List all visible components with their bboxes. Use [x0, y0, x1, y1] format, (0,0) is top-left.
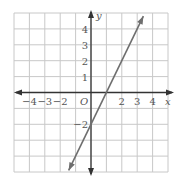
x-axis-label: x	[165, 96, 171, 107]
line-arrow-down-icon	[69, 162, 75, 171]
x-tick-label: −3	[37, 96, 52, 107]
y-tick-label: −2	[73, 119, 88, 130]
tick-labels: −4−3−22344321−2	[22, 24, 156, 130]
y-tick-label: 4	[82, 24, 88, 35]
x-axis-arrow-left-icon	[14, 90, 22, 96]
y-tick-label: 1	[82, 72, 88, 83]
axes	[14, 10, 174, 176]
y-axis-label: y	[95, 10, 102, 21]
y-axis-arrow-up-icon	[88, 10, 94, 18]
x-tick-label: −2	[53, 96, 68, 107]
line-arrow-up-icon	[137, 16, 143, 25]
origin-label: O	[80, 96, 88, 107]
x-tick-label: 3	[134, 96, 140, 107]
x-tick-label: 2	[119, 96, 125, 107]
y-tick-label: 2	[82, 56, 88, 67]
coordinate-plane: −4−3−22344321−2 x y O	[0, 0, 177, 180]
x-tick-label: 4	[149, 96, 155, 107]
x-tick-label: −4	[22, 96, 37, 107]
y-tick-label: 3	[82, 40, 88, 51]
